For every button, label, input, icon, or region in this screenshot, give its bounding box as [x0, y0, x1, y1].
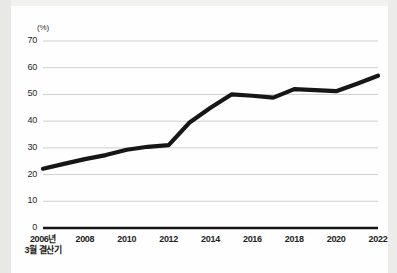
y-axis-tick-label: 60	[15, 62, 37, 72]
y-axis-unit-label: (%)	[37, 23, 49, 32]
y-axis-tick-label: 40	[15, 115, 37, 125]
x-axis-tick-label: 2012	[149, 234, 189, 244]
y-axis-tick-label: 50	[15, 88, 37, 98]
page-right-margin	[388, 0, 397, 273]
x-axis-tick-label-note: 3월 결산기	[15, 245, 71, 256]
chart-page: (%) 010203040506070 2006년3월 결산기200820102…	[0, 0, 397, 273]
x-axis-tick-label: 2016	[232, 234, 272, 244]
y-axis-tick-label: 30	[15, 142, 37, 152]
x-axis-tick-label: 2022	[358, 234, 397, 244]
data-line	[43, 76, 378, 169]
y-axis-tick-label: 70	[15, 35, 37, 45]
x-axis-tick-label: 2018	[274, 234, 314, 244]
chart-canvas: (%) 010203040506070 2006년3월 결산기200820102…	[11, 6, 388, 273]
x-axis-tick-label-first: 2006년3월 결산기	[15, 234, 71, 256]
x-axis-tick-label-year: 2006년	[15, 234, 71, 245]
page-left-margin	[0, 0, 11, 273]
gridlines	[43, 41, 378, 201]
series-line	[43, 76, 378, 169]
x-axis-tick-label: 2010	[107, 234, 147, 244]
y-axis-tick-label: 0	[15, 222, 37, 232]
x-axis-tick-label: 2008	[65, 234, 105, 244]
y-axis-tick-label: 20	[15, 169, 37, 179]
x-axis-tick-label: 2020	[316, 234, 356, 244]
y-axis-tick-label: 10	[15, 195, 37, 205]
line-chart-plot	[11, 6, 388, 273]
x-axis-tick-label: 2014	[191, 234, 231, 244]
